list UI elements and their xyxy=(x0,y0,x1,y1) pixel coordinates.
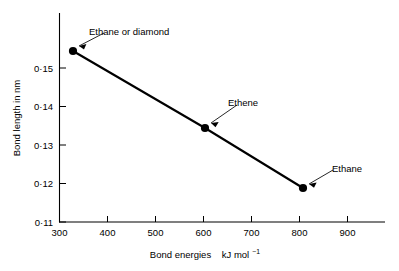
bond-length-vs-bond-energy-chart: 0·11 0·12 0·13 0·14 0·15 300 400 500 600… xyxy=(0,0,399,271)
x-axis-title-exponent: −1 xyxy=(252,248,260,255)
annotation-label-ethane: Ethane xyxy=(332,163,362,174)
data-point-ethene[interactable] xyxy=(201,124,209,132)
x-tick-label-500: 500 xyxy=(148,227,164,238)
y-tick-label-0-11: 0·11 xyxy=(35,217,53,228)
x-tick-label-300: 300 xyxy=(52,227,68,238)
x-axis-title-unit: kJ mol xyxy=(222,249,249,260)
data-point-ethane-or-diamond[interactable] xyxy=(69,47,77,55)
y-axis-title: Bond length in nm xyxy=(11,80,22,157)
y-tick-label-0-15: 0·15 xyxy=(34,63,53,74)
data-point-ethane[interactable] xyxy=(299,184,307,192)
y-tick-label-0-14: 0·14 xyxy=(34,101,53,112)
x-tick-label-900: 900 xyxy=(340,227,356,238)
y-tick-label-0-13: 0·13 xyxy=(34,140,53,151)
y-tick-label-0-12: 0·12 xyxy=(34,178,53,189)
x-tick-label-700: 700 xyxy=(244,227,260,238)
annotation-label-ethene: Ethene xyxy=(228,97,258,108)
x-axis-title-main: Bond energies xyxy=(150,249,212,260)
x-tick-label-600: 600 xyxy=(196,227,212,238)
chart-figure: 0·11 0·12 0·13 0·14 0·15 300 400 500 600… xyxy=(0,0,399,271)
x-tick-label-400: 400 xyxy=(100,227,116,238)
x-tick-label-800: 800 xyxy=(292,227,308,238)
annotation-label-ethane-or-diamond: Ethane or diamond xyxy=(89,26,169,37)
x-axis-title: Bond energies kJ mol −1 xyxy=(150,248,260,260)
